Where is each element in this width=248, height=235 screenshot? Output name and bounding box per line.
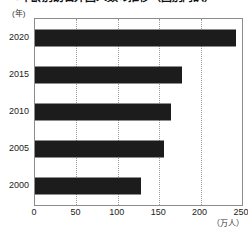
y-tick-2020: 2020 [9, 18, 29, 55]
x-tick-100: 100 [109, 207, 124, 217]
bar-row [35, 19, 242, 56]
plot-area [34, 18, 243, 206]
x-tick-150: 150 [151, 207, 166, 217]
bar-row [35, 93, 242, 130]
bar-2010 [35, 103, 171, 120]
x-tick-250: 250 [233, 207, 248, 217]
bar-row [35, 131, 242, 168]
bar-row [35, 56, 242, 93]
bar-2000 [35, 178, 141, 195]
y-tick-2010: 2010 [9, 92, 29, 129]
y-tick-2000: 2000 [9, 167, 29, 204]
y-axis-unit-label: (年) [12, 9, 25, 18]
y-axis-tick-labels: 20202015201020052000 [0, 18, 32, 204]
bar-2015 [35, 66, 182, 83]
bar-2020 [35, 29, 236, 46]
x-axis-tick-labels: 050100150200250 [34, 207, 241, 219]
bar-row [35, 168, 242, 205]
chart-title: ●年齢別訪日外国人数の推移（国別内訳） [14, 0, 215, 3]
x-tick-50: 50 [70, 207, 80, 217]
bar-chart: ●年齢別訪日外国人数の推移（国別内訳） (年) 2020201520102005… [0, 0, 248, 235]
x-tick-200: 200 [192, 207, 207, 217]
bar-2005 [35, 141, 164, 158]
x-tick-0: 0 [31, 207, 36, 217]
bar-series [35, 19, 242, 205]
x-axis-unit-label: （万人） [212, 219, 244, 228]
y-tick-2005: 2005 [9, 130, 29, 167]
y-tick-2015: 2015 [9, 55, 29, 92]
